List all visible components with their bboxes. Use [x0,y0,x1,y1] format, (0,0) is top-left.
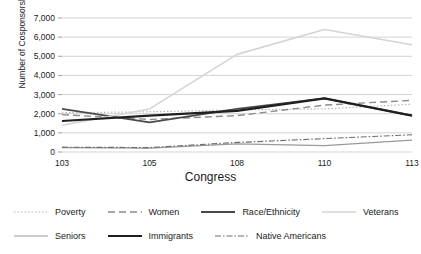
y-tick-label: 5,000 [34,51,56,61]
y-tick-label: 0 [50,147,55,157]
legend-line-swatch [108,231,142,241]
y-axis-label: Number of Cosponsorships [17,0,27,111]
x-tick-label: 108 [230,158,244,168]
plot-svg: 01,0002,0003,0004,0005,0006,0007,000 103… [0,0,421,196]
legend-line-swatch [108,207,142,217]
series-line [62,140,412,148]
line-chart: 01,0002,0003,0004,0005,0006,0007,000 103… [0,0,421,254]
legend-item-veterans[interactable]: Veterans [322,207,399,217]
legend-item-immigrants[interactable]: Immigrants [108,231,194,241]
legend-item-native-americans[interactable]: Native Americans [215,231,326,241]
x-tick-label: 113 [405,158,419,168]
legend-line-swatch [215,231,249,241]
y-tick-label: 2,000 [34,109,56,119]
x-tick-label: 103 [55,158,69,168]
y-tick-label: 7,000 [34,13,56,23]
x-axis-label: Congress [0,170,421,184]
legend-line-swatch [14,231,48,241]
plot-area: 01,0002,0003,0004,0005,0006,0007,000 103… [0,0,421,196]
legend-label: Immigrants [149,231,194,241]
legend-row: PovertyWomenRace/EthnicityVeterans [0,200,421,224]
y-tick-label: 4,000 [34,70,56,80]
gridlines [62,18,412,152]
legend-line-swatch [322,207,356,217]
legend-label: Seniors [55,231,86,241]
x-axis-ticks: 103105108110113 [55,158,419,168]
legend-line-swatch [201,207,235,217]
legend-label: Women [149,207,180,217]
series-line [62,135,412,148]
chart-legend: PovertyWomenRace/EthnicityVeteransSenior… [0,200,421,248]
legend-row: SeniorsImmigrantsNative Americans [0,224,421,248]
legend-label: Poverty [55,207,86,217]
x-tick-label: 105 [142,158,156,168]
data-series-group [62,29,412,148]
legend-item-poverty[interactable]: Poverty [14,207,86,217]
y-axis-ticks: 01,0002,0003,0004,0005,0006,0007,000 [34,13,62,157]
y-tick-label: 3,000 [34,90,56,100]
legend-item-women[interactable]: Women [108,207,180,217]
legend-label: Veterans [363,207,399,217]
legend-line-swatch [14,207,48,217]
legend-item-seniors[interactable]: Seniors [14,231,86,241]
x-tick-label: 110 [318,158,332,168]
legend-label: Race/Ethnicity [242,207,300,217]
legend-item-race-ethnicity[interactable]: Race/Ethnicity [201,207,300,217]
y-tick-label: 1,000 [34,128,56,138]
y-tick-label: 6,000 [34,32,56,42]
legend-label: Native Americans [256,231,326,241]
